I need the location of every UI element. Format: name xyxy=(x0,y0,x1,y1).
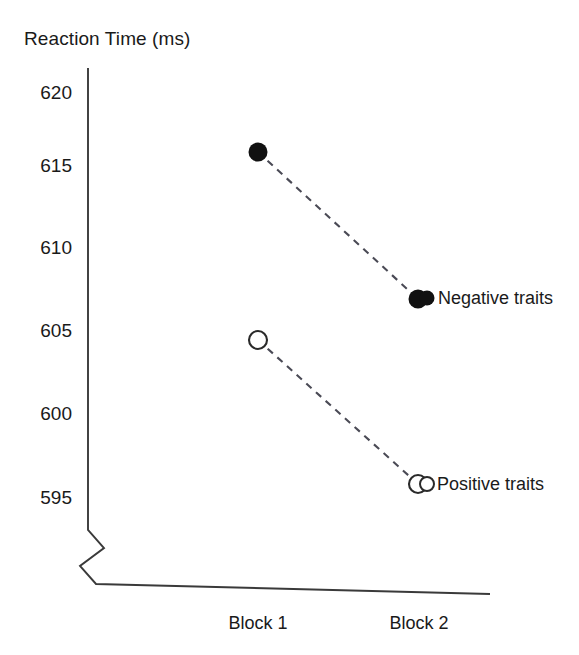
y-axis-with-break-and-x-axis xyxy=(80,68,490,594)
positive-traits-dashed-line xyxy=(258,340,418,484)
series-label-positive-traits: Positive traits xyxy=(437,474,544,495)
plot-area xyxy=(0,0,579,655)
negative-traits-dashed-line xyxy=(258,152,418,299)
positive-traits-point-block1 xyxy=(249,331,267,349)
series-negative-traits xyxy=(249,143,435,309)
x-tick-label-block-2: Block 2 xyxy=(389,613,448,634)
x-tick-label-block-1: Block 1 xyxy=(228,613,287,634)
negative-traits-legend-marker xyxy=(420,291,435,306)
series-label-negative-traits: Negative traits xyxy=(438,288,553,309)
positive-traits-legend-marker xyxy=(420,477,434,491)
negative-traits-point-block1 xyxy=(249,143,268,162)
series-positive-traits xyxy=(249,331,434,493)
axes-group xyxy=(80,68,490,594)
reaction-time-chart: Reaction Time (ms) 620 615 610 605 600 5… xyxy=(0,0,579,655)
